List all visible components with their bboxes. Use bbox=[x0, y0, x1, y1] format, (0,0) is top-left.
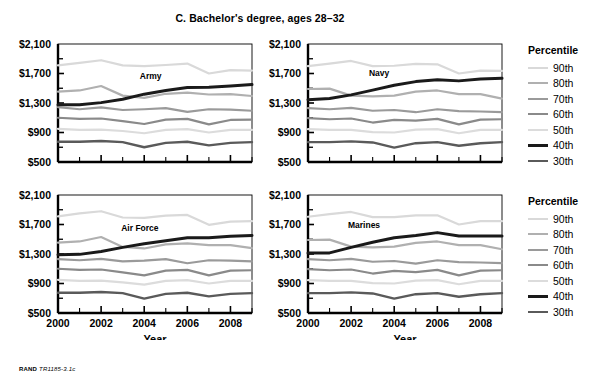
legend-item-60th: 60th bbox=[528, 107, 587, 123]
series-line-40th bbox=[308, 78, 502, 99]
legend-swatch-icon bbox=[528, 249, 548, 251]
series-line-60th bbox=[58, 269, 252, 276]
y-axis-tick-label: $1,300 bbox=[269, 248, 301, 260]
chart-panel-marines: $500$900$1,300$1,700$2,10020002002200420… bbox=[250, 185, 510, 340]
series-annotation-label: Navy bbox=[369, 68, 390, 78]
legend-label: 70th bbox=[553, 94, 587, 105]
legend-swatch-icon bbox=[528, 82, 548, 84]
legend-item-50th: 50th bbox=[528, 273, 587, 289]
legend-item-90th: 90th bbox=[528, 60, 587, 76]
series-line-30th bbox=[308, 141, 502, 147]
legend-item-70th: 70th bbox=[528, 91, 587, 107]
legend-label: 90th bbox=[553, 63, 587, 74]
chart-panel-army: $500$900$1,300$1,700$2,100Army bbox=[0, 34, 260, 189]
y-axis-tick-label: $1,700 bbox=[269, 218, 301, 230]
series-line-90th bbox=[308, 61, 502, 74]
y-axis-tick-label: $2,100 bbox=[269, 38, 301, 50]
series-annotation-label: Marines bbox=[348, 220, 380, 230]
legend-item-90th: 90th bbox=[528, 211, 587, 227]
series-line-70th bbox=[308, 259, 502, 264]
legend-label: 30th bbox=[553, 307, 587, 318]
panel-grid: $500$900$1,300$1,700$2,100Army$500$900$1… bbox=[0, 34, 520, 344]
series-line-30th bbox=[58, 292, 252, 299]
chart-panel-navy: $500$900$1,300$1,700$2,100Navy bbox=[250, 34, 510, 189]
legend-swatch-icon bbox=[528, 295, 548, 298]
footer-brand: RAND bbox=[19, 366, 37, 372]
legend-bottom: Percentile 90th80th70th60th50th40th30th bbox=[528, 195, 587, 320]
y-axis-tick-label: $1,700 bbox=[269, 67, 301, 79]
y-axis-tick-label: $1,300 bbox=[19, 97, 51, 109]
series-annotation-label: Air Force bbox=[121, 223, 159, 233]
series-line-50th bbox=[58, 280, 252, 285]
legend-swatch-icon bbox=[528, 264, 548, 266]
legend-title: Percentile bbox=[528, 44, 587, 56]
legend-label: 90th bbox=[553, 214, 587, 225]
series-annotation-label: Army bbox=[140, 71, 162, 81]
y-axis-tick-label: $1,300 bbox=[19, 248, 51, 260]
legend-rows: 90th80th70th60th50th40th30th bbox=[528, 60, 587, 169]
series-line-50th bbox=[308, 129, 502, 133]
legend-swatch-icon bbox=[528, 144, 548, 147]
x-axis-tick-label: 2000 bbox=[296, 317, 320, 329]
legend-label: 80th bbox=[553, 229, 587, 240]
legend-item-30th: 30th bbox=[528, 304, 587, 320]
series-line-60th bbox=[58, 118, 252, 125]
series-line-90th bbox=[308, 212, 502, 225]
legend-title: Percentile bbox=[528, 195, 587, 207]
y-axis-tick-label: $2,100 bbox=[19, 189, 51, 201]
legend-swatch-icon bbox=[528, 67, 548, 69]
x-axis-tick-label: 2008 bbox=[219, 317, 243, 329]
figure-root: C. Bachelor's degree, ages 28–32 $500$90… bbox=[0, 0, 604, 388]
legend-label: 60th bbox=[553, 109, 587, 120]
legend-swatch-icon bbox=[528, 280, 548, 282]
legend-item-40th: 40th bbox=[528, 138, 587, 154]
legend-item-80th: 80th bbox=[528, 227, 587, 243]
y-axis-tick-label: $1,700 bbox=[19, 218, 51, 230]
legend-label: 70th bbox=[553, 245, 587, 256]
legend-label: 40th bbox=[553, 140, 587, 151]
legend-rows: 90th80th70th60th50th40th30th bbox=[528, 211, 587, 320]
x-axis-tick-label: 2008 bbox=[469, 317, 493, 329]
x-axis-tick-label: 2002 bbox=[339, 317, 363, 329]
x-axis-tick-label: 2004 bbox=[133, 317, 157, 329]
legend-swatch-icon bbox=[528, 218, 548, 220]
legend-label: 50th bbox=[553, 125, 587, 136]
y-axis-tick-label: $900 bbox=[28, 277, 52, 289]
legend-label: 60th bbox=[553, 260, 587, 271]
series-line-80th bbox=[308, 240, 502, 250]
legend-item-50th: 50th bbox=[528, 122, 587, 138]
legend-label: 50th bbox=[553, 276, 587, 287]
legend-swatch-icon bbox=[528, 233, 548, 235]
series-line-50th bbox=[58, 129, 252, 133]
series-line-70th bbox=[58, 259, 252, 263]
chart-panel-air-force: $500$900$1,300$1,700$2,10020002002200420… bbox=[0, 185, 260, 340]
legend-top: Percentile 90th80th70th60th50th40th30th bbox=[528, 44, 587, 169]
x-axis-tick-label: 2002 bbox=[89, 317, 113, 329]
series-line-70th bbox=[58, 107, 252, 112]
y-axis-tick-label: $2,100 bbox=[269, 189, 301, 201]
y-axis-tick-label: $2,100 bbox=[19, 38, 51, 50]
legend-item-60th: 60th bbox=[528, 258, 587, 274]
page-title: C. Bachelor's degree, ages 28–32 bbox=[0, 12, 520, 24]
x-axis-title: Year bbox=[393, 333, 417, 340]
series-line-70th bbox=[308, 108, 502, 112]
legend-swatch-icon bbox=[528, 160, 548, 162]
y-axis-tick-label: $900 bbox=[278, 277, 302, 289]
legend-swatch-icon bbox=[528, 129, 548, 131]
y-axis-tick-label: $500 bbox=[28, 156, 52, 168]
legend-item-40th: 40th bbox=[528, 289, 587, 305]
y-axis-tick-label: $900 bbox=[28, 126, 52, 138]
x-axis-tick-label: 2000 bbox=[46, 317, 70, 329]
series-line-30th bbox=[58, 141, 252, 147]
x-axis-tick-label: 2004 bbox=[383, 317, 407, 329]
x-axis-title: Year bbox=[143, 333, 167, 340]
y-axis-tick-label: $1,300 bbox=[269, 97, 301, 109]
series-line-60th bbox=[308, 118, 502, 124]
series-line-50th bbox=[308, 280, 502, 284]
legend-swatch-icon bbox=[528, 98, 548, 100]
y-axis-tick-label: $900 bbox=[278, 126, 302, 138]
series-line-60th bbox=[308, 269, 502, 275]
footer-code: TR1185-3.1c bbox=[39, 366, 75, 372]
source-footer: RAND TR1185-3.1c bbox=[19, 366, 75, 372]
x-axis-tick-label: 2006 bbox=[426, 317, 450, 329]
